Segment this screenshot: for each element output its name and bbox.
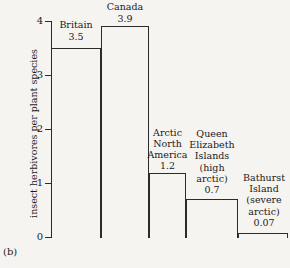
bar-label-bathurst-island: Bathurst Island (severe arctic) (240, 172, 288, 217)
bar-value-arctic-north-america: 1.2 (146, 160, 189, 171)
bar-britain (51, 48, 101, 238)
bar-value-britain: 3.5 (52, 31, 100, 42)
bar-value-bathurst-island: 0.07 (240, 217, 288, 228)
bar-label-canada: Canada (100, 1, 150, 12)
y-tick-label-0: 0 (26, 232, 43, 242)
bar-value-queen-elizabeth-islands: 0.7 (189, 184, 235, 195)
bar-queen-elizabeth-islands (186, 199, 238, 238)
bar-bathurst-island (238, 233, 288, 238)
y-tick-label-4: 4 (26, 16, 43, 26)
bar-label-arctic-north-america: Arctic North America (146, 127, 189, 161)
y-tick-4 (45, 21, 51, 22)
bar-canada (101, 26, 149, 238)
bar-label-queen-elizabeth-islands: Queen Elizabeth Islands (high arctic) (189, 128, 235, 184)
bar-label-britain: Britain (52, 19, 100, 30)
bar-value-canada: 3.9 (100, 13, 150, 24)
panel-label: (b) (3, 246, 17, 257)
y-axis-title: insect herbivores per plant species (28, 39, 39, 229)
bar-arctic-north-america (149, 173, 186, 238)
figure-panel-b: 4 3 2 1 0 insect herbivores per plant sp… (0, 0, 290, 268)
